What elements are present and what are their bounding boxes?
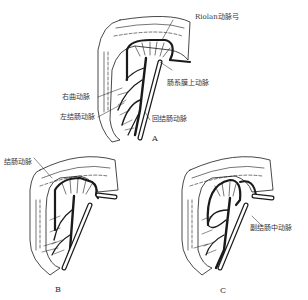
panel-c-drawing — [182, 157, 273, 275]
label-colic-artery: 结肠动脉 — [4, 159, 32, 166]
panel-letter-a: A — [152, 134, 158, 143]
anatomy-illustration — [0, 0, 308, 300]
label-riolan-arc: Riolan动脉弓 — [195, 14, 239, 21]
label-accessory-middle-colic-artery: 副结肠中动脉 — [250, 225, 292, 232]
label-left-colic-artery: 左结肠动脉 — [60, 114, 95, 121]
label-ileocolic-artery: 回结肠动脉 — [152, 116, 187, 123]
label-right-colic-artery: 右曲动脉 — [62, 94, 90, 101]
panel-letter-b: B — [55, 285, 61, 294]
label-superior-mesenteric-artery: 肠系膜上动脉 — [167, 80, 209, 87]
panel-b-drawing — [30, 157, 118, 275]
panel-letter-c: C — [220, 286, 226, 295]
